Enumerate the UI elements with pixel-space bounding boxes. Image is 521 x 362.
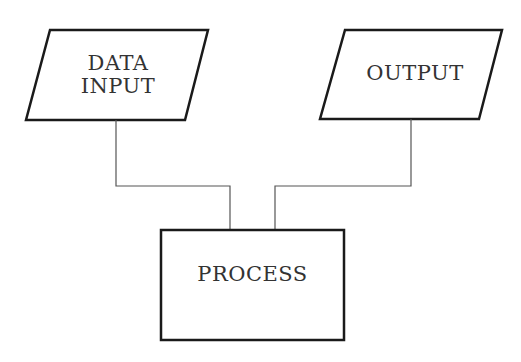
output-label: OUTPUT: [340, 62, 490, 85]
data-input-label-line-2: INPUT: [58, 75, 178, 98]
connector-data-input-to-process: [116, 120, 230, 230]
connector-output-to-process: [275, 119, 411, 230]
data-input-label-line-1: DATA: [58, 52, 178, 75]
process-label: PROCESS: [161, 263, 344, 286]
data-input-label: DATA INPUT: [58, 52, 178, 98]
